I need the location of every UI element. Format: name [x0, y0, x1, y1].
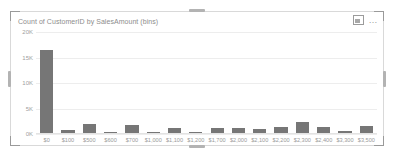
bar[interactable]	[360, 126, 373, 133]
visual-card[interactable]: … Count of CustomerID by SalesAmount (bi…	[10, 11, 384, 146]
bar-slot	[36, 32, 57, 133]
gridline	[36, 134, 377, 135]
bar-slot	[207, 32, 228, 133]
bar[interactable]	[274, 127, 287, 133]
bar[interactable]	[317, 127, 330, 133]
bar[interactable]	[40, 50, 53, 133]
bar[interactable]	[211, 128, 224, 133]
bar-slot	[249, 32, 270, 133]
bar[interactable]	[61, 130, 74, 133]
resize-handle-left[interactable]	[8, 71, 11, 87]
bar-slot	[270, 32, 291, 133]
resize-handle-bottom[interactable]	[189, 145, 205, 148]
bar-slot	[334, 32, 355, 133]
y-axis-tick-label: 5K	[26, 106, 33, 112]
bar-slot	[292, 32, 313, 133]
x-axis-tick-label: $2,100	[249, 137, 270, 143]
x-axis-tick-label: $500	[79, 137, 100, 143]
bar[interactable]	[83, 124, 96, 133]
bar[interactable]	[168, 128, 181, 133]
x-axis-tick-label: $3,300	[334, 137, 355, 143]
x-axis-tick-label: $600	[100, 137, 121, 143]
x-axis-tick-label: $2,200	[270, 137, 291, 143]
bar-slot	[164, 32, 185, 133]
x-axis-tick-label: $2,000	[228, 137, 249, 143]
x-axis-tick-label: $2,300	[292, 137, 313, 143]
bar-slot	[143, 32, 164, 133]
more-options-icon[interactable]: …	[369, 16, 379, 24]
bar-slot	[185, 32, 206, 133]
bar[interactable]	[338, 131, 351, 133]
resize-handle-top[interactable]	[189, 9, 205, 12]
bar[interactable]	[189, 132, 202, 134]
resize-handle-right[interactable]	[383, 71, 386, 87]
x-axis: $0$100$500$600$700$1,000$1,100$1,200$1,7…	[36, 137, 377, 143]
y-axis-tick-label: 15K	[22, 55, 33, 61]
bar-slot	[100, 32, 121, 133]
bar[interactable]	[125, 125, 138, 133]
bar[interactable]	[104, 132, 117, 133]
resize-handle-bottom-left[interactable]	[10, 136, 20, 146]
x-axis-tick-label: $100	[57, 137, 78, 143]
bar-slot	[57, 32, 78, 133]
x-axis-tick-label: $700	[121, 137, 142, 143]
y-axis-tick-label: 0K	[26, 131, 33, 137]
bar[interactable]	[253, 129, 266, 133]
bar[interactable]	[296, 122, 309, 133]
x-axis-tick-label: $1,100	[164, 137, 185, 143]
focus-mode-icon[interactable]	[353, 15, 364, 25]
x-axis-tick-label: $3,500	[356, 137, 377, 143]
x-axis-tick-label: $1,000	[143, 137, 164, 143]
bar-slot	[228, 32, 249, 133]
x-axis-tick-label: $2,400	[313, 137, 334, 143]
bar-slot	[356, 32, 377, 133]
x-axis-tick-label: $1,700	[207, 137, 228, 143]
bar-series	[36, 32, 377, 133]
bar[interactable]	[147, 132, 160, 134]
bar-slot	[121, 32, 142, 133]
bar-slot	[313, 32, 334, 133]
chart-title: Count of CustomerID by SalesAmount (bins…	[18, 18, 158, 25]
bar-slot	[79, 32, 100, 133]
visual-header-actions: …	[353, 15, 379, 25]
y-axis-tick-label: 20K	[22, 29, 33, 35]
y-axis-tick-label: 10K	[22, 80, 33, 86]
x-axis-tick-label: $0	[36, 137, 57, 143]
plot-area: 20K15K10K5K0K	[36, 32, 377, 134]
axis-baseline	[36, 133, 377, 134]
x-axis-tick-label: $1,200	[185, 137, 206, 143]
bar[interactable]	[232, 128, 245, 133]
